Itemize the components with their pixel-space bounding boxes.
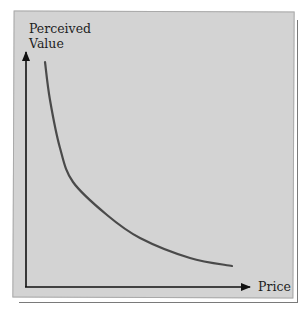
chart-canvas: Perceived Value Price [0, 0, 306, 314]
value-curve [45, 62, 232, 266]
x-axis-label: Price [258, 279, 291, 294]
y-axis-label-line2: Value [28, 36, 64, 51]
y-axis-label-line1: Perceived [29, 21, 91, 36]
